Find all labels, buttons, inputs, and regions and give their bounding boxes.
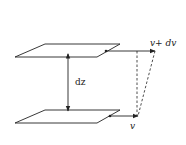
diagram-graphics — [0, 0, 186, 145]
dashed-slanted-line — [138, 51, 155, 116]
bottom-velocity-label: v — [130, 122, 135, 131]
bottom-plane — [15, 110, 120, 123]
separation-label: dz — [75, 78, 86, 87]
top-velocity-label: v+ dv — [150, 39, 176, 48]
top-plane — [15, 44, 120, 57]
shear-flow-diagram: dz v+ dv v — [0, 0, 186, 145]
